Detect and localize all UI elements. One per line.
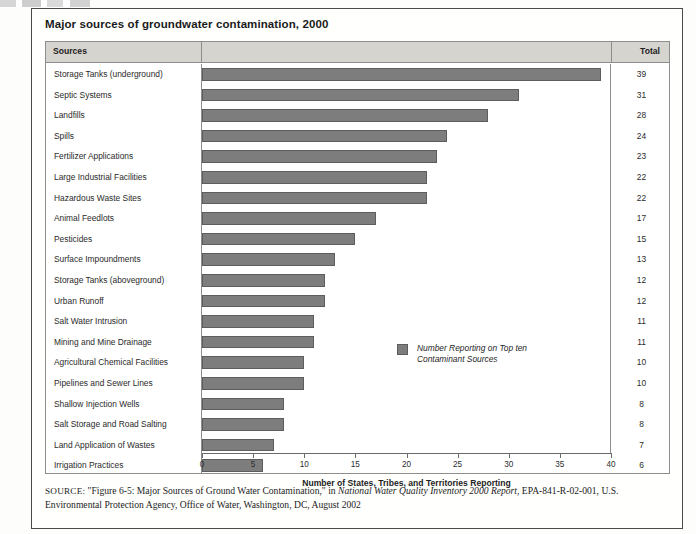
row-value-total: 11 <box>612 337 671 347</box>
row-value-total: 17 <box>612 213 671 223</box>
table-row: Septic Systems31 <box>46 85 669 106</box>
table-body: Storage Tanks (underground)39Septic Syst… <box>46 64 669 473</box>
bar <box>202 150 437 163</box>
bar <box>202 171 427 184</box>
row-value-total: 24 <box>612 131 671 141</box>
x-axis-tick-label: 20 <box>402 460 411 469</box>
source-note-prefix: SOURCE: <box>45 486 85 496</box>
table-header-row: Sources Total <box>46 42 669 63</box>
table-row: Mining and Mine Drainage11 <box>46 332 669 353</box>
table-row: Animal Feedlots17 <box>46 208 669 229</box>
bar <box>202 439 274 452</box>
x-axis-tick-label: 0 <box>200 460 205 469</box>
row-value-total: 31 <box>612 90 671 100</box>
source-note-quoted: "Figure 6-5: Major Sources of Ground Wat… <box>88 485 326 496</box>
bar <box>202 68 601 81</box>
table-row: Agricultural Chemical Facilities10 <box>46 352 669 373</box>
x-axis-tick <box>253 453 254 458</box>
x-axis-tick-label: 30 <box>504 460 513 469</box>
row-value-total: 10 <box>612 357 671 367</box>
bar <box>202 315 314 328</box>
row-value-total: 6 <box>612 460 671 470</box>
header-divider-right <box>611 42 612 62</box>
table-row: Surface Impoundments13 <box>46 249 669 270</box>
row-value-total: 28 <box>612 110 671 120</box>
row-value-total: 22 <box>612 193 671 203</box>
bar <box>202 253 335 266</box>
row-label-source: Pesticides <box>54 234 92 244</box>
x-axis-tick <box>611 453 612 458</box>
legend-swatch-icon <box>397 344 408 355</box>
table-row: Spills24 <box>46 126 669 147</box>
chart-legend: Number Reporting on Top ten Contaminant … <box>397 343 527 365</box>
table-row: Shallow Injection Wells8 <box>46 394 669 415</box>
bar <box>202 398 284 411</box>
row-label-source: Salt Storage and Road Salting <box>54 419 167 429</box>
x-axis-tick <box>458 453 459 458</box>
row-label-source: Irrigation Practices <box>54 460 123 470</box>
row-label-source: Salt Water Intrusion <box>54 316 127 326</box>
x-axis-tick <box>407 453 408 458</box>
row-value-total: 11 <box>612 316 671 326</box>
x-axis-tick-label: 25 <box>453 460 462 469</box>
row-label-source: Septic Systems <box>54 90 112 100</box>
x-axis-tick-label: 15 <box>351 460 360 469</box>
column-header-sources: Sources <box>53 46 87 56</box>
row-value-total: 12 <box>612 296 671 306</box>
row-label-source: Hazardous Waste Sites <box>54 193 141 203</box>
bar <box>202 109 488 122</box>
row-label-source: Animal Feedlots <box>54 213 114 223</box>
row-label-source: Agricultural Chemical Facilities <box>54 357 168 367</box>
source-note-publication: National Water Quality Inventory 2000 Re… <box>338 485 517 496</box>
table-row: Landfills28 <box>46 105 669 126</box>
table-row: Pesticides15 <box>46 229 669 250</box>
row-value-total: 12 <box>612 275 671 285</box>
x-axis-tick-label: 5 <box>251 460 256 469</box>
bar <box>202 233 355 246</box>
row-label-source: Urban Runoff <box>54 296 104 306</box>
table-row: Storage Tanks (aboveground)12 <box>46 270 669 291</box>
row-label-source: Storage Tanks (aboveground) <box>54 275 164 285</box>
table-row: Salt Water Intrusion11 <box>46 311 669 332</box>
x-axis-tick <box>304 453 305 458</box>
row-value-total: 15 <box>612 234 671 244</box>
row-value-total: 8 <box>612 399 671 409</box>
row-value-total: 8 <box>612 419 671 429</box>
source-note-connector: in <box>326 485 338 496</box>
bar <box>202 130 447 143</box>
x-axis-tick-label: 40 <box>606 460 615 469</box>
bar <box>202 336 314 349</box>
bar <box>202 212 376 225</box>
scan-artifact <box>0 0 90 7</box>
row-label-source: Large Industrial Facilities <box>54 172 147 182</box>
legend-label: Number Reporting on Top ten Contaminant … <box>417 343 527 365</box>
row-label-source: Spills <box>54 131 74 141</box>
bar <box>202 418 284 431</box>
table-row: Urban Runoff12 <box>46 291 669 312</box>
row-label-source: Fertilizer Applications <box>54 151 133 161</box>
table-row: Large Industrial Facilities22 <box>46 167 669 188</box>
bar <box>202 295 325 308</box>
row-label-source: Shallow Injection Wells <box>54 399 140 409</box>
row-value-total: 13 <box>612 254 671 264</box>
table-row: Pipelines and Sewer Lines10 <box>46 373 669 394</box>
x-axis-tick <box>509 453 510 458</box>
table-row: Salt Storage and Road Salting8 <box>46 414 669 435</box>
row-value-total: 39 <box>612 69 671 79</box>
row-label-source: Storage Tanks (underground) <box>54 69 163 79</box>
data-table: Sources Total Storage Tanks (underground… <box>45 41 670 474</box>
header-divider-left <box>201 42 202 62</box>
row-label-source: Land Application of Wastes <box>54 440 155 450</box>
bar <box>202 356 304 369</box>
bar <box>202 274 325 287</box>
x-axis-tick <box>355 453 356 458</box>
bar <box>202 89 519 102</box>
table-row: Fertilizer Applications23 <box>46 146 669 167</box>
bar <box>202 192 427 205</box>
source-note: SOURCE: "Figure 6-5: Major Sources of Gr… <box>45 484 667 512</box>
x-axis-tick-label: 10 <box>300 460 309 469</box>
x-axis-tick <box>202 453 203 458</box>
bar <box>202 377 304 390</box>
page-title: Major sources of groundwater contaminati… <box>45 18 328 30</box>
x-axis-tick-label: 35 <box>555 460 564 469</box>
